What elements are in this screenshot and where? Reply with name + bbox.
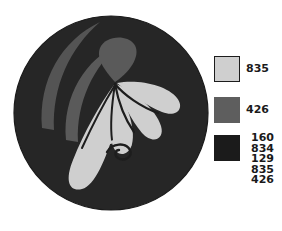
legend-label-group-1: 835 bbox=[246, 56, 269, 82]
legend-swatch-mid bbox=[214, 97, 240, 123]
legend-label: 426 bbox=[246, 175, 274, 186]
legend-label: 835 bbox=[246, 56, 269, 82]
legend-label-group-3: 160 834 129 835 426 bbox=[246, 133, 274, 186]
circular-image-panel bbox=[0, 0, 214, 231]
circular-image-svg bbox=[0, 0, 214, 231]
legend-entry-1: 835 bbox=[214, 56, 282, 84]
legend-label-group-2: 426 bbox=[246, 97, 269, 123]
legend-entry-2: 426 bbox=[214, 97, 282, 125]
legend: 835 426 160 834 129 835 426 bbox=[214, 56, 282, 186]
legend-swatch-dark bbox=[214, 135, 240, 161]
image-content bbox=[0, 0, 214, 231]
legend-entry-3: 160 834 129 835 426 bbox=[214, 135, 282, 187]
figure-root: 835 426 160 834 129 835 426 bbox=[0, 0, 282, 231]
legend-swatch-light bbox=[214, 56, 240, 82]
legend-label: 426 bbox=[246, 97, 269, 123]
